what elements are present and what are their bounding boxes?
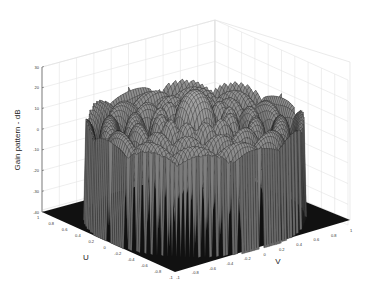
gain-pattern-3d-plot: 3020100-10-20-30-40 Gain pattern - dB 10… xyxy=(0,0,375,295)
svg-text:0.4: 0.4 xyxy=(75,233,81,238)
svg-text:10: 10 xyxy=(35,106,40,111)
svg-text:-10: -10 xyxy=(33,147,40,152)
svg-text:-1: -1 xyxy=(169,275,173,280)
v-axis-label: V xyxy=(275,257,281,266)
svg-text:0: 0 xyxy=(263,252,266,257)
svg-text:-20: -20 xyxy=(33,168,40,173)
svg-text:-0.8: -0.8 xyxy=(192,270,200,275)
gain-surface xyxy=(83,79,306,257)
svg-text:-0.6: -0.6 xyxy=(209,266,217,271)
svg-text:20: 20 xyxy=(35,85,40,90)
svg-text:0.8: 0.8 xyxy=(49,221,55,226)
svg-text:-0.2: -0.2 xyxy=(114,251,122,256)
svg-text:0.2: 0.2 xyxy=(88,239,94,244)
svg-text:-0.4: -0.4 xyxy=(226,261,234,266)
u-axis-label: U xyxy=(83,253,89,262)
svg-text:0.8: 0.8 xyxy=(331,233,337,238)
svg-text:1: 1 xyxy=(37,215,40,220)
svg-text:0.6: 0.6 xyxy=(62,227,68,232)
svg-text:0.2: 0.2 xyxy=(279,247,285,252)
svg-text:-0.2: -0.2 xyxy=(244,256,252,261)
svg-text:0.6: 0.6 xyxy=(314,237,320,242)
z-axis-label: Gain pattern - dB xyxy=(13,110,22,171)
svg-text:-30: -30 xyxy=(33,189,40,194)
svg-text:-40: -40 xyxy=(33,210,40,215)
svg-text:30: 30 xyxy=(35,65,40,70)
svg-text:1: 1 xyxy=(350,228,353,233)
svg-text:0: 0 xyxy=(37,127,40,132)
svg-text:-1: -1 xyxy=(176,275,180,280)
svg-text:-0.6: -0.6 xyxy=(141,263,149,268)
svg-text:-0.8: -0.8 xyxy=(154,269,162,274)
svg-text:-0.4: -0.4 xyxy=(128,257,136,262)
svg-text:0: 0 xyxy=(103,245,106,250)
svg-text:0.4: 0.4 xyxy=(296,242,302,247)
